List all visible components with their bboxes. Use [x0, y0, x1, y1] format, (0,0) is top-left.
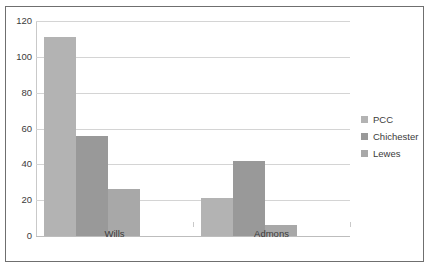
bar-chichester-wills[interactable] [76, 136, 108, 236]
y-tick-label-120: 120 [6, 16, 32, 26]
legend-label-lewes: Lewes [373, 149, 400, 159]
y-tick-label-0: 0 [6, 231, 32, 241]
bar-pcc-wills[interactable] [44, 37, 76, 236]
legend-item-pcc[interactable]: PCC [361, 111, 431, 128]
x-axis-tick-0 [193, 222, 194, 227]
gridline-60 [36, 129, 350, 130]
legend-swatch-icon-pcc [361, 116, 368, 123]
y-tick-label-100: 100 [6, 52, 32, 62]
x-category-label-admons: Admons [193, 229, 350, 239]
bar-chichester-admons[interactable] [233, 161, 265, 236]
legend-swatch-icon-lewes [361, 150, 368, 157]
x-axis-tick-1 [350, 222, 351, 227]
y-tick-label-40: 40 [6, 159, 32, 169]
chart-frame: 020406080100120 WillsAdmons PCCChicheste… [5, 6, 424, 262]
y-tick-label-80: 80 [6, 88, 32, 98]
gridline-120 [36, 21, 350, 22]
legend-label-pcc: PCC [373, 115, 393, 125]
x-category-label-wills: Wills [36, 229, 193, 239]
gridline-80 [36, 93, 350, 94]
legend-label-chichester: Chichester [373, 132, 418, 142]
gridline-100 [36, 57, 350, 58]
legend-item-chichester[interactable]: Chichester [361, 128, 431, 145]
plot-area [36, 21, 350, 236]
chart-legend: PCCChichesterLewes [361, 111, 431, 162]
legend-item-lewes[interactable]: Lewes [361, 145, 431, 162]
y-axis-tick-labels: 020406080100120 [6, 7, 32, 261]
y-tick-label-60: 60 [6, 124, 32, 134]
legend-swatch-icon-chichester [361, 133, 368, 140]
y-tick-label-20: 20 [6, 195, 32, 205]
